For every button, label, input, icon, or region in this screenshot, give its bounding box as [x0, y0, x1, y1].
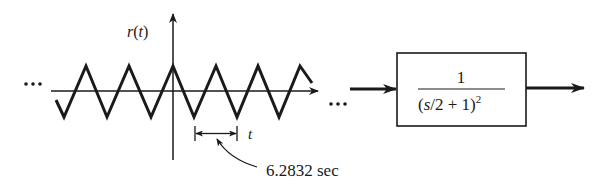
tf-denominator: (s/2 + 1)2	[418, 93, 481, 114]
ellipsis-left	[24, 82, 42, 86]
period-marker	[195, 126, 237, 141]
diagram-canvas: r(t) t 6.2832 sec 1 (s/2 + 1)2	[0, 0, 603, 190]
period-value-label: 6.2832 sec	[266, 161, 339, 180]
period-leader-arrow	[217, 139, 257, 167]
tf-numerator: 1	[457, 68, 466, 87]
time-label: t	[248, 126, 253, 142]
tf-exponent: 2	[476, 93, 482, 105]
ellipsis-right	[329, 102, 347, 106]
signal-label: r(t)	[127, 23, 148, 41]
